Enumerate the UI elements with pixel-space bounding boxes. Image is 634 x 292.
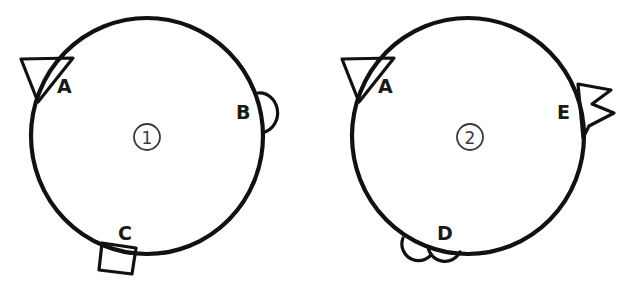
label-a-1: A [57, 75, 72, 97]
diagram-1: 1 A B C [21, 18, 278, 274]
label-b-1: B [236, 101, 250, 123]
label-c-1: C [118, 222, 132, 244]
label-d-2: D [437, 222, 453, 244]
index-badge-1: 1 [134, 124, 160, 150]
index-number-1: 1 [142, 128, 153, 148]
diagram-canvas: 1 A B C [0, 0, 634, 292]
label-e-2: E [557, 101, 570, 123]
diagram-2: 2 A E D [342, 18, 614, 261]
index-number-2: 2 [465, 128, 476, 148]
index-badge-2: 2 [457, 124, 483, 150]
label-a-2: A [378, 75, 393, 97]
